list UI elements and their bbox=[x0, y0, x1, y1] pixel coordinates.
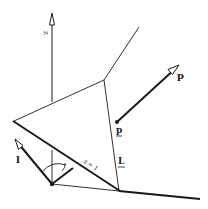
l-vector-label: l bbox=[16, 154, 20, 165]
z-axis-arrowhead-icon bbox=[50, 13, 55, 25]
L-label: L bbox=[118, 156, 125, 166]
geometry-diagram: z z = 1 p p L l bbox=[0, 0, 208, 209]
z-axis-label: z bbox=[42, 31, 50, 35]
origin-dot bbox=[50, 182, 54, 186]
z-plane-label: z = 1 bbox=[83, 157, 100, 172]
upper-frame bbox=[14, 27, 139, 191]
p-vector-label: p bbox=[177, 70, 184, 81]
bottom-line bbox=[119, 191, 200, 199]
l-vector: l bbox=[15, 139, 52, 184]
p-point-dot bbox=[115, 120, 119, 124]
p-vector: p bbox=[115, 65, 184, 124]
p-point-label: p bbox=[116, 125, 122, 135]
z-axis: z bbox=[42, 13, 55, 102]
L-line bbox=[104, 80, 119, 191]
